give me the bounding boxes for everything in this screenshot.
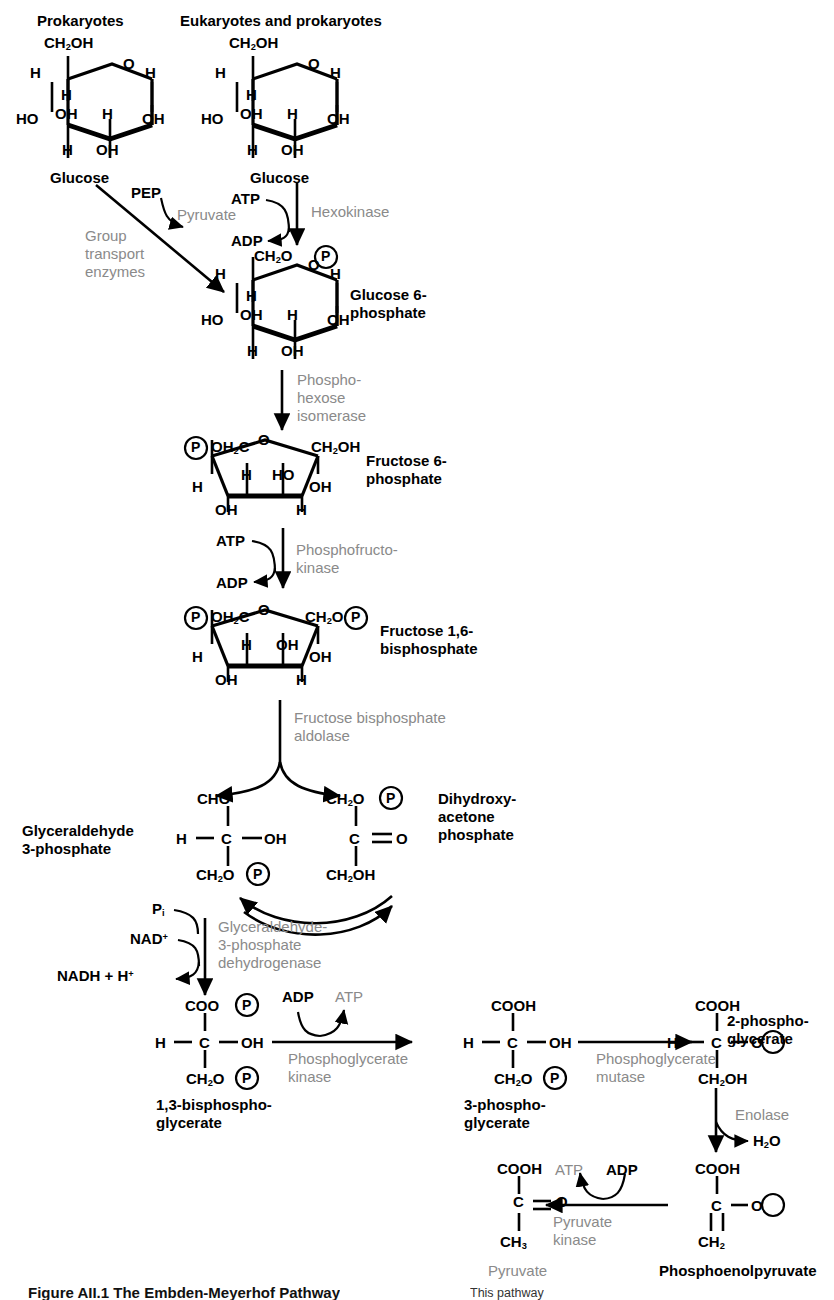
atom-h-right-glucose-left: H	[145, 64, 156, 82]
atom-h-bottom-g6p: H	[247, 342, 258, 360]
atom-ho-glucose-left: HO	[16, 110, 39, 128]
metabolite-g6p-line2: phosphate	[350, 304, 426, 322]
metabolite-fbp-line1: Fructose 1,6-	[380, 622, 473, 640]
enzyme-enolase: Enolase	[735, 1106, 789, 1124]
atom-oh-bottom-g6p: OH	[281, 342, 304, 360]
atom-h-pg2: H	[667, 1034, 678, 1052]
atom-oh2c-fbp: OH2C	[211, 608, 250, 627]
atom-h-right-g6p: H	[330, 265, 341, 283]
atp-in-curve	[266, 200, 289, 232]
cofactor-pi: Pi	[152, 900, 165, 919]
phosphate-circle-pep	[762, 1194, 784, 1216]
metabolite-pg2-line1: 2-phospho-	[727, 1012, 809, 1030]
atom-oh-right-glucose-right: OH	[327, 110, 350, 128]
atom-ch2-pep: CH2	[698, 1233, 725, 1252]
atom-oh-bottom-glucose-left: OH	[96, 141, 119, 159]
atom-o-dhap: O	[396, 830, 408, 848]
enzyme-aldolase-line1: Fructose bisphosphate	[294, 709, 446, 727]
cofactor-adp-2: ADP	[216, 574, 248, 592]
atom-ch2oh-dhap: CH2OH	[326, 866, 375, 885]
atom-oh2c-f6p: OH2C	[211, 438, 250, 457]
nadh-out-curve	[176, 962, 199, 979]
enzyme-pfk-line1: Phosphofructo-	[296, 541, 398, 559]
atom-oh-inner-g6p: OH	[240, 306, 263, 324]
atom-cooh-pyruvate: COOH	[497, 1160, 542, 1178]
atom-h-inner-glucose-right: H	[246, 86, 257, 104]
atp4-out-curve	[580, 1173, 603, 1199]
figure-caption: Figure AII.1 The Embden-Meyerhof Pathway	[28, 1284, 340, 1300]
atom-oh-inner-glucose-right: OH	[240, 105, 263, 123]
atom-ch2oh-f6p: CH2OH	[311, 438, 360, 457]
adp-out-curve	[268, 228, 289, 241]
enzyme-pgk-line2: kinase	[288, 1068, 331, 1086]
enzyme-hexokinase: Hexokinase	[311, 203, 389, 221]
metabolite-fbp-line2: bisphosphate	[380, 640, 478, 658]
atom-ho-inner-f6p: HO	[272, 466, 295, 484]
atom-ch2oh-pg2: CH2OH	[698, 1070, 747, 1089]
enzyme-group-transport-line1: Group	[85, 227, 127, 245]
cofactor-atp-4: ATP	[555, 1161, 583, 1179]
atom-h-inner2-glucose-right: H	[287, 105, 298, 123]
atom-ring-o-glucose-right: O	[308, 55, 320, 73]
dhap-chain-bonds	[356, 806, 392, 866]
enzyme-gapdh-line2: 3-phosphate	[218, 936, 301, 954]
atom-ho-glucose-right: HO	[201, 110, 224, 128]
atom-cooh-pep: COOH	[695, 1160, 740, 1178]
atom-ch2o-pg3: CH2O	[494, 1070, 533, 1089]
atom-oh-right-f6p: OH	[309, 478, 332, 496]
atom-h-inner-fbp: H	[241, 636, 252, 654]
atom-c-g3p: C	[221, 830, 232, 848]
enzyme-pyruvate-kinase-line1: Pyruvate	[553, 1213, 612, 1231]
header-eukaryotes-prokaryotes: Eukaryotes and prokaryotes	[180, 12, 382, 30]
atom-cooh-pg3: COOH	[491, 997, 536, 1015]
cofactor-adp-3: ADP	[282, 988, 314, 1006]
metabolite-g3p-line2: 3-phosphate	[22, 840, 111, 858]
enzyme-pgm-line2: mutase	[596, 1068, 645, 1086]
enzyme-pyruvate-kinase-line2: kinase	[553, 1231, 596, 1249]
atom-ch2o-g3p: CH2O	[196, 866, 235, 885]
adp3-in-curve	[298, 1012, 320, 1036]
atom-h-left-f6p: H	[192, 478, 203, 496]
metabolite-g3p-line1: Glyceraldehyde	[22, 822, 134, 840]
atp2-in-curve	[252, 541, 275, 572]
atom-h-left-glucose-right: H	[215, 64, 226, 82]
atom-h-bottom-glucose-right: H	[247, 141, 258, 159]
metabolite-dhap-line1: Dihydroxy-	[438, 790, 516, 808]
enzyme-phosphohexose-line2: hexose	[297, 389, 345, 407]
atom-c-pg3: C	[507, 1034, 518, 1052]
pi-in-curve	[174, 910, 198, 934]
atom-ch2o-dhap: CH2O	[326, 790, 365, 809]
atom-c-pg2: C	[711, 1034, 722, 1052]
atom-oh-inner-fbp: OH	[276, 636, 299, 654]
enzyme-gapdh-line1: Glyceraldehyde-	[218, 918, 327, 936]
atom-oh-pg3: OH	[549, 1034, 572, 1052]
atom-h-bpg: H	[155, 1034, 166, 1052]
cofactor-adp-4: ADP	[606, 1161, 638, 1179]
atom-c-pyruvate: C	[513, 1193, 524, 1211]
enzyme-group-transport-line2: transport	[85, 245, 144, 263]
atom-ring-o-fbp: O	[258, 601, 270, 619]
atom-h-inner-f6p: H	[241, 466, 252, 484]
atom-oh-right-g6p: OH	[327, 311, 350, 329]
nad-in-curve	[178, 940, 199, 966]
figure-caption-title: The Embden-Meyerhof Pathway	[113, 1284, 340, 1300]
metabolite-dhap-line3: phosphate	[438, 826, 514, 844]
cofactor-nad-plus: NAD+	[130, 930, 168, 948]
metabolite-f6p-line1: Fructose 6-	[366, 452, 447, 470]
atom-h-g3p: H	[176, 830, 187, 848]
enzyme-group-transport-line3: enzymes	[85, 263, 145, 281]
metabolite-pep: Phosphoenolpyruvate	[659, 1262, 817, 1280]
atp3-out-curve	[320, 1010, 344, 1036]
cofactor-atp-1: ATP	[231, 190, 260, 208]
atom-c-dhap: C	[349, 830, 360, 848]
phosphate-letter-g3p: P	[253, 866, 262, 883]
atom-coo-bpg: COO	[185, 997, 219, 1015]
phosphate-letter-fbp-6: P	[351, 609, 360, 626]
enzyme-phosphohexose-line1: Phospho-	[297, 371, 361, 389]
metabolite-pg2-line2: glycerate	[727, 1030, 793, 1048]
phosphate-letter-g6p: P	[321, 248, 330, 265]
atom-ho-g6p: HO	[201, 311, 224, 329]
enzyme-pgm-line1: Phosphoglycerate	[596, 1050, 716, 1068]
metabolite-f6p-line2: phosphate	[366, 470, 442, 488]
atom-c-pep: C	[711, 1197, 722, 1215]
